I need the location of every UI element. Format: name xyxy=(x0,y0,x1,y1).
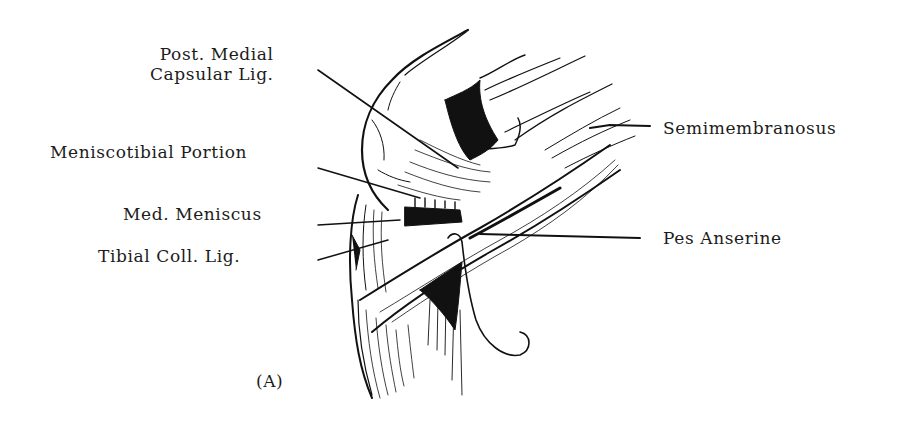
label-meniscotibial-portion: Meniscotibial Portion xyxy=(50,142,247,162)
label-tibial-coll-lig: Tibial Coll. Lig. xyxy=(98,246,240,266)
label-post-medial-capsular-lig: Post. Medial Capsular Lig. xyxy=(150,44,274,84)
label-pes-anserine: Pes Anserine xyxy=(663,228,782,248)
label-line: Capsular Lig. xyxy=(150,64,274,84)
label-semimembranosus: Semimembranosus xyxy=(663,118,836,138)
label-med-meniscus: Med. Meniscus xyxy=(123,204,262,224)
anatomical-figure: Post. Medial Capsular Lig. Meniscotibial… xyxy=(0,0,918,431)
label-line: Post. Medial xyxy=(150,44,274,64)
panel-label: (A) xyxy=(256,371,283,391)
